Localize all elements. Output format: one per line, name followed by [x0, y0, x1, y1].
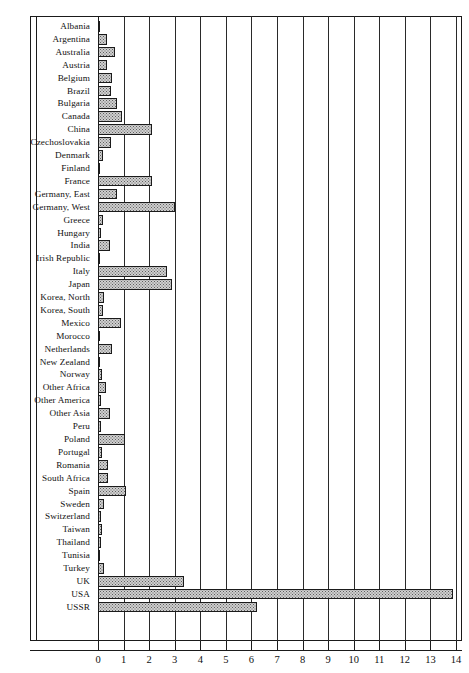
bar-track	[98, 34, 107, 45]
bar-track	[98, 215, 103, 226]
bar	[98, 21, 100, 32]
bar-row: Korea, North	[30, 291, 462, 304]
category-label: Peru	[30, 420, 94, 433]
tick-11	[379, 641, 380, 650]
bar-row: Thailand	[30, 536, 462, 549]
category-label: Poland	[30, 433, 94, 446]
bar-row: Canada	[30, 110, 462, 123]
bar	[98, 421, 101, 432]
category-label: Japan	[30, 278, 94, 291]
bar-track	[98, 486, 126, 497]
bar	[98, 589, 453, 600]
bar-track	[98, 73, 112, 84]
bar-row: Argentina	[30, 33, 462, 46]
bar-row: Tunisia	[30, 549, 462, 562]
bar-track	[98, 163, 100, 174]
bar-row: Austria	[30, 59, 462, 72]
category-label: Germany, East	[30, 188, 94, 201]
bar-row: Italy	[30, 265, 462, 278]
bar-row: France	[30, 175, 462, 188]
bar-row: Belgium	[30, 72, 462, 85]
bar-row: Germany, West	[30, 201, 462, 214]
tick-label-13: 13	[418, 653, 442, 666]
tick-label-2: 2	[137, 653, 161, 666]
bar-row: Poland	[30, 433, 462, 446]
bar	[98, 111, 122, 122]
bar-row: Portugal	[30, 446, 462, 459]
tick-label-14: 14	[444, 653, 468, 666]
bar	[98, 60, 107, 71]
bar-row: New Zealand	[30, 356, 462, 369]
bar-row: China	[30, 123, 462, 136]
bar-row: Australia	[30, 46, 462, 59]
bar-track	[98, 369, 102, 380]
category-label: USA	[30, 588, 94, 601]
plot-area: AlbaniaArgentinaAustraliaAustriaBelgiumB…	[30, 16, 462, 641]
category-label: Switzerland	[30, 510, 94, 523]
x-axis-rule	[30, 650, 462, 651]
bar-row: Other America	[30, 394, 462, 407]
bar	[98, 318, 121, 329]
category-label: Greece	[30, 214, 94, 227]
bar-track	[98, 524, 102, 535]
bar-row: Germany, East	[30, 188, 462, 201]
bar-row: Taiwan	[30, 523, 462, 536]
bar-track	[98, 86, 111, 97]
bar-row: Czechoslovakia	[30, 136, 462, 149]
tick-0	[98, 641, 99, 650]
tick-label-9: 9	[316, 653, 340, 666]
bar	[98, 266, 167, 277]
bar-chart: AlbaniaArgentinaAustraliaAustriaBelgiumB…	[0, 0, 469, 673]
bar-row: Norway	[30, 368, 462, 381]
category-label: Other Asia	[30, 407, 94, 420]
bar-row: Japan	[30, 278, 462, 291]
category-label: Czechoslovakia	[30, 136, 94, 149]
bar	[98, 395, 101, 406]
bar	[98, 357, 100, 368]
bar	[98, 240, 110, 251]
tick-9	[328, 641, 329, 650]
bar-row: Netherlands	[30, 343, 462, 356]
tick-label-0: 0	[86, 653, 110, 666]
bar-row: Morocco	[30, 330, 462, 343]
category-label: Romania	[30, 459, 94, 472]
tick-1	[124, 641, 125, 650]
category-label: Austria	[30, 59, 94, 72]
bar-track	[98, 189, 117, 200]
tick-3	[175, 641, 176, 650]
bar-track	[98, 537, 101, 548]
category-label: Italy	[30, 265, 94, 278]
bar-track	[98, 473, 108, 484]
category-label: Norway	[30, 368, 94, 381]
bar-track	[98, 589, 453, 600]
bar	[98, 499, 104, 510]
category-label: Brazil	[30, 85, 94, 98]
category-label: Taiwan	[30, 523, 94, 536]
bar	[98, 344, 112, 355]
bar	[98, 150, 103, 161]
bar-track	[98, 602, 257, 613]
bar-track	[98, 202, 175, 213]
bar-row: Other Asia	[30, 407, 462, 420]
bar	[98, 524, 102, 535]
bar-row: Irish Republic	[30, 252, 462, 265]
tick-2	[149, 641, 150, 650]
bar	[98, 434, 125, 445]
bar	[98, 137, 111, 148]
bar	[98, 382, 106, 393]
bar	[98, 602, 257, 613]
category-label: Hungary	[30, 227, 94, 240]
bar-track	[98, 279, 172, 290]
bar-track	[98, 434, 125, 445]
tick-label-7: 7	[265, 653, 289, 666]
bar-row: Spain	[30, 485, 462, 498]
category-label: Denmark	[30, 149, 94, 162]
bar-row: India	[30, 239, 462, 252]
bar	[98, 369, 102, 380]
bar-track	[98, 563, 104, 574]
bar-row: Finland	[30, 162, 462, 175]
bar-track	[98, 292, 104, 303]
bar	[98, 563, 104, 574]
bar	[98, 86, 111, 97]
category-label: China	[30, 123, 94, 136]
